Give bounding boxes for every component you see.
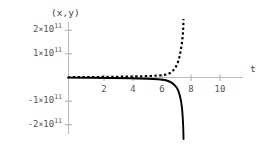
y-tick-label-neg2e11: -2×1011 — [0, 120, 62, 129]
y-tick-1e11-exponent: 11 — [54, 46, 62, 54]
plot-figure: (x,y) t 2×1011 1×1011 -1×1011 -2×1011 2 … — [0, 0, 269, 146]
series-y-dashed-curve — [68, 19, 184, 77]
y-tick-label-2e11: 2×1011 — [0, 25, 62, 34]
y-tick-label-1e11: 1×1011 — [0, 49, 62, 58]
y-tick-2e11-exponent: 11 — [54, 22, 62, 30]
y-tick-2e11-base: 10 — [43, 24, 54, 34]
y-tick-neg1e11-exponent: 11 — [54, 93, 62, 101]
x-tick-label-2: 2 — [94, 85, 114, 94]
y-tick-neg2e11-exponent: 11 — [54, 117, 62, 125]
y-tick-label-neg1e11: -1×1011 — [0, 96, 62, 105]
y-tick-1e11-base: 10 — [43, 48, 54, 58]
x-tick-label-8: 8 — [181, 85, 201, 94]
x-tick-label-6: 6 — [152, 85, 172, 94]
y-tick-neg1e11-mantissa: -1 — [28, 95, 39, 105]
y-tick-neg1e11-base: 10 — [43, 95, 54, 105]
x-tick-label-10: 10 — [210, 85, 230, 94]
y-axis-label: (x,y) — [51, 8, 80, 18]
x-axis-label: t — [250, 64, 256, 74]
y-tick-neg2e11-base: 10 — [43, 119, 54, 129]
x-tick-label-4: 4 — [123, 85, 143, 94]
y-tick-neg2e11-mantissa: -2 — [28, 119, 39, 129]
